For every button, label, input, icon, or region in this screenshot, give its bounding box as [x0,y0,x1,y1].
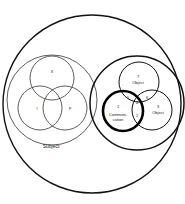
subject-circle-left [18,86,62,130]
subject-top-label: II [51,69,53,74]
object-right-label: Object [152,110,164,115]
intersection-4: 4 [136,100,139,105]
communication-number: 1 [117,104,120,109]
outer-circle [3,15,181,193]
subject-group: II I P Subject [7,55,97,149]
venn-diagram: II I P Subject 7 Object 1 Communi- catio… [0,0,185,204]
object-top-label: Object [132,80,144,85]
subject-circle-top [30,56,74,100]
intersection-2: 2 [136,113,139,118]
object-top-number: 7 [137,74,140,79]
subject-label: Subject [43,143,60,149]
object-right-number: 3 [157,104,160,109]
subject-left-label: I [36,106,37,111]
communication-label-line2: cation [113,117,124,122]
object-group: 7 Object 1 Communi- cation 3 Object 5 4 … [90,56,184,150]
subject-right-label: P [69,106,72,111]
subject-circle-right [43,86,87,130]
communication-circle [103,91,143,131]
